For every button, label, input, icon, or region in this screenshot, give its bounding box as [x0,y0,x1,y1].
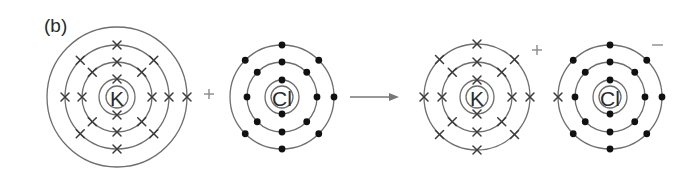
electron-cross [510,56,518,64]
electron-dot [279,129,286,136]
electron-cross [138,118,146,126]
reaction-arrow [350,93,399,101]
electron-dot [631,69,638,76]
electron-dot [607,42,614,49]
electron-cross [88,68,96,76]
electron-dot [315,57,322,64]
electron-dot [254,118,261,125]
K-ion: K [420,40,534,154]
electron-cross [498,68,506,76]
electron-dot [242,57,249,64]
electron-dot [607,77,614,84]
electron-cross [510,130,518,138]
electron-cross [138,68,146,76]
electron-dot [279,111,286,118]
electron-dot [303,118,310,125]
electron-dot [279,146,286,153]
K-atom: K [47,27,191,167]
electron-dot [244,94,251,101]
electron-dot [279,59,286,66]
electron-dot [242,130,249,137]
electron-dot [279,77,286,84]
electron-dot [331,94,338,101]
electron-dot [643,57,650,64]
electron-cross [448,118,456,126]
electron-dot [659,94,666,101]
electron-cross [150,56,158,64]
electron-dot [642,94,649,101]
electron-dot [631,118,638,125]
element-symbol: Cl [272,87,292,110]
electron-dot [582,118,589,125]
plus-sign [204,89,214,99]
Cl-ion: Cl [554,42,665,153]
electron-dot [315,130,322,137]
electron-dot [279,42,286,49]
positive-charge-sign [532,45,542,55]
electron-cross [76,130,84,138]
electron-dot [607,146,614,153]
panel-label: (b) [44,15,67,36]
electron-dot [607,129,614,136]
electron-cross [436,56,444,64]
electron-cross [88,118,96,126]
electron-dot [303,69,310,76]
Cl-atom: Cl [230,42,337,153]
element-symbol: Cl [600,87,620,110]
electron-dot [582,69,589,76]
electron-dot [570,57,577,64]
ionic-bonding-diagram: (b) KClKCl [0,0,700,174]
electron-cross [436,130,444,138]
electron-cross [76,56,84,64]
electron-cross [498,118,506,126]
electron-cross [448,68,456,76]
electron-dot [254,69,261,76]
electron-dot [570,130,577,137]
electron-cross [150,130,158,138]
electron-dot [314,94,321,101]
electron-dot [607,59,614,66]
electron-dot [572,94,579,101]
element-symbol: K [470,87,484,110]
electron-dot [607,111,614,118]
electron-dot [643,130,650,137]
element-symbol: K [110,87,124,110]
